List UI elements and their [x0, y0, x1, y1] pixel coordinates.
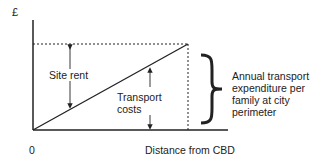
transport-costs-label-line1: Transport: [117, 91, 162, 103]
x-axis-label: Distance from CBD: [145, 144, 235, 156]
curly-brace-icon: [201, 55, 222, 123]
annotation-line: expenditure per: [232, 82, 309, 94]
y-axis-label: £: [12, 6, 18, 18]
annotation-line: family at city: [232, 94, 309, 106]
transport-cost-line: [33, 44, 188, 130]
brace-annotation: Annual transport expenditure per family …: [232, 70, 309, 118]
origin-label: 0: [29, 144, 35, 156]
annotation-line: perimeter: [232, 106, 309, 118]
transport-costs-label-line2: costs: [117, 103, 142, 115]
site-rent-label: Site rent: [48, 69, 89, 81]
annotation-line: Annual transport: [232, 70, 309, 82]
